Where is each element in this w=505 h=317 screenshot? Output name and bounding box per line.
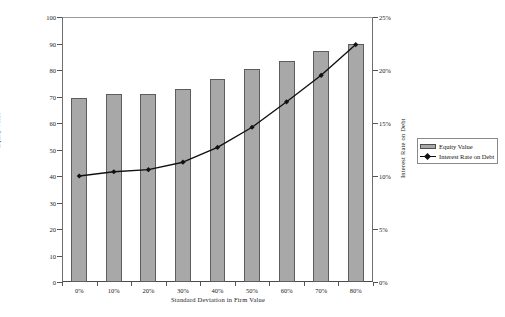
- y-axis-right-tick-label: 15%: [379, 120, 391, 127]
- x-axis-tickmark: [373, 282, 374, 286]
- legend-item-equity-value: Equity Value: [420, 141, 494, 151]
- x-axis-tick-label: 10%: [108, 287, 120, 294]
- y-axis-left: 0102030405060708090100: [30, 17, 56, 282]
- y-axis-left-title: Equity Value: [0, 112, 1, 148]
- y-axis-right-tickmark: [373, 123, 378, 124]
- x-axis-tick-label: 50%: [246, 287, 258, 294]
- line-series-interest-rate: [62, 17, 373, 282]
- y-axis-left-tick-label: 60: [50, 120, 57, 127]
- y-axis-left-tick-label: 0: [53, 279, 56, 286]
- y-axis-right-tickmark: [373, 70, 378, 71]
- y-axis-right-tick-label: 10%: [379, 173, 391, 180]
- legend-item-interest-rate: Interest Rate on Debt: [420, 151, 494, 161]
- y-axis-right-tick-label: 0%: [379, 279, 388, 286]
- x-axis-tick-label: 20%: [142, 287, 154, 294]
- x-axis-tickmark: [200, 282, 201, 286]
- y-axis-right-tick-label: 20%: [379, 67, 391, 74]
- y-axis-left-tick-label: 70: [50, 93, 57, 100]
- x-axis-tick-label: 70%: [315, 287, 327, 294]
- y-axis-right-tickmark: [373, 17, 378, 18]
- x-axis-tickmark: [62, 282, 63, 286]
- x-axis-tickmark: [166, 282, 167, 286]
- x-axis-tick-label: 80%: [350, 287, 362, 294]
- legend-line-diamond-swatch-icon: [420, 153, 436, 160]
- x-axis-tickmark: [304, 282, 305, 286]
- line-marker-diamond-icon: [180, 160, 185, 165]
- y-axis-right-tick-label: 25%: [379, 14, 391, 21]
- x-axis-tickmark: [235, 282, 236, 286]
- chart-legend: Equity Value Interest Rate on Debt: [417, 138, 498, 164]
- y-axis-right-tick-label: 5%: [379, 226, 388, 233]
- x-axis-tick-label: 30%: [177, 287, 189, 294]
- y-axis-left-tick-label: 90: [50, 40, 57, 47]
- y-axis-left-tick-label: 50: [50, 146, 57, 153]
- legend-label-equity-value: Equity Value: [439, 143, 473, 150]
- x-axis-tick-label: 60%: [281, 287, 293, 294]
- y-axis-left-tick-label: 10: [50, 252, 57, 259]
- y-axis-left-tick-label: 30: [50, 199, 57, 206]
- x-axis-tick-label: 40%: [212, 287, 224, 294]
- chart-figure: 0102030405060708090100 0%5%10%15%20%25% …: [0, 0, 505, 317]
- y-axis-left-tick-label: 40: [50, 173, 57, 180]
- line-marker-diamond-icon: [111, 169, 116, 174]
- y-axis-left-tick-label: 80: [50, 67, 57, 74]
- x-axis-tickmark: [131, 282, 132, 286]
- y-axis-left-tick-label: 20: [50, 226, 57, 233]
- x-axis-tickmark: [269, 282, 270, 286]
- y-axis-right-tickmark: [373, 176, 378, 177]
- legend-bar-swatch-icon: [420, 144, 436, 149]
- line-marker-diamond-icon: [77, 173, 82, 178]
- line-path: [79, 45, 355, 176]
- y-axis-left-tick-label: 100: [46, 14, 56, 21]
- line-marker-diamond-icon: [146, 167, 151, 172]
- y-axis-right-tickmark: [373, 229, 378, 230]
- x-axis-tickmark: [338, 282, 339, 286]
- x-axis-tick-label: 0%: [75, 287, 84, 294]
- legend-label-interest-rate: Interest Rate on Debt: [439, 153, 494, 160]
- x-axis-tickmark: [97, 282, 98, 286]
- x-axis-title: Standard Deviation in Firm Value: [0, 296, 436, 303]
- y-axis-right-title: Interest Rate on Debt: [399, 118, 406, 178]
